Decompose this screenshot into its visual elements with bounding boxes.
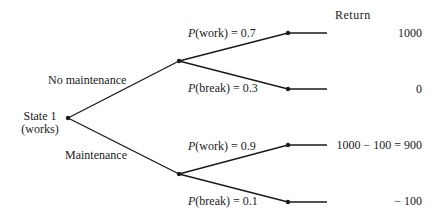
chance-node-no-maintenance — [177, 59, 181, 63]
prob-label-m-break: P(break) = 0.1 — [188, 195, 258, 208]
root-node — [66, 116, 70, 120]
prob-label-nm-break: P(break) = 0.3 — [188, 82, 258, 95]
terminal-node-1 — [286, 31, 290, 35]
decision-label-maintenance: Maintenance — [65, 149, 127, 162]
prob-event: (break) = 0.3 — [195, 81, 257, 95]
root-label: State 1 (works) — [18, 110, 62, 136]
branch-no-maintenance — [68, 61, 179, 118]
prob-label-nm-work: P(work) = 0.7 — [188, 27, 256, 40]
terminal-node-3 — [286, 143, 290, 147]
root-label-line2: (works) — [18, 123, 62, 136]
terminal-node-2 — [286, 87, 290, 91]
return-value-3: 1000 − 100 = 900 — [322, 139, 422, 152]
return-value-2: 0 — [322, 83, 422, 96]
prob-event: (work) = 0.7 — [195, 26, 255, 40]
terminal-node-4 — [286, 200, 290, 204]
prob-event: (work) = 0.9 — [195, 139, 255, 153]
return-header: Return — [335, 9, 371, 22]
prob-label-m-work: P(work) = 0.9 — [188, 140, 256, 153]
return-value-4: − 100 — [322, 195, 422, 208]
return-value-1: 1000 — [322, 27, 422, 40]
chance-node-maintenance — [177, 172, 181, 176]
branch-maintenance — [68, 118, 179, 174]
decision-label-no-maintenance: No maintenance — [48, 74, 126, 87]
prob-event: (break) = 0.1 — [195, 194, 257, 208]
